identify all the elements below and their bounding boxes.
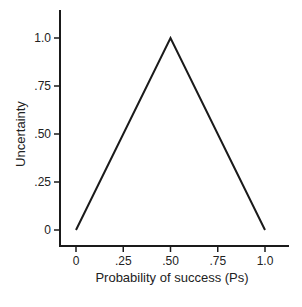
y-tick-label: .75 [34,79,51,93]
x-tick-label: .75 [209,254,226,268]
uncertainty-line [76,38,265,230]
x-tick-label: 1.0 [257,254,274,268]
y-axis-label: Uncertainty [13,101,28,167]
x-tick-label: .50 [162,254,179,268]
x-ticks: 0.25.50.751.0 [73,246,274,268]
x-tick-label: 0 [73,254,80,268]
uncertainty-chart: 0.25.50.751.0 0.25.50.751.0 Probability … [0,0,302,307]
y-tick-label: 0 [44,223,51,237]
y-tick-label: 1.0 [34,31,51,45]
x-axis-label: Probability of success (Ps) [95,270,248,285]
y-ticks: 0.25.50.751.0 [34,31,60,237]
y-tick-label: .50 [34,127,51,141]
x-tick-label: .25 [115,254,132,268]
y-tick-label: .25 [34,175,51,189]
